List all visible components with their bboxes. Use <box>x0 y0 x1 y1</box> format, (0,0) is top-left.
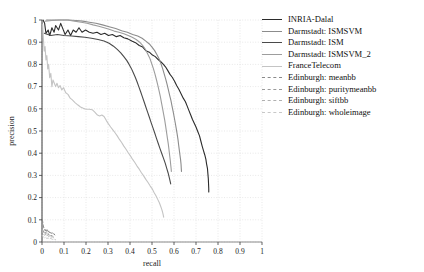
y-tick-label: 0.3 <box>28 171 38 180</box>
y-tick-label: 0.8 <box>28 60 38 69</box>
legend-item[interactable]: Darmstadt: ISMSVM <box>262 26 424 38</box>
series-line-1 <box>46 20 181 171</box>
x-tick-label: 0 <box>40 247 44 256</box>
series-line-4 <box>43 24 164 217</box>
series-line-0 <box>43 20 209 192</box>
y-tick-label: 0.5 <box>28 127 38 136</box>
x-tick-label: 0.5 <box>147 247 157 256</box>
legend-item-label: Darmstadt: ISM <box>288 37 344 49</box>
y-tick-label: 0.9 <box>28 38 38 47</box>
y-tick-label: 0.4 <box>28 149 38 158</box>
y-axis-title: precision <box>7 116 16 145</box>
x-tick-label: 0.9 <box>235 247 245 256</box>
legend-line-swatch <box>262 89 282 90</box>
x-tick-label: 0.3 <box>103 247 113 256</box>
legend-item-label: FranceTelecom <box>288 60 341 72</box>
legend-item-label: Edinburgh: meanbb <box>288 72 356 84</box>
y-tick-label: 0 <box>33 238 37 247</box>
legend-item[interactable]: Darmstadt: ISM <box>262 37 424 49</box>
legend-line-swatch <box>262 66 282 67</box>
legend-item[interactable]: FranceTelecom <box>262 60 424 72</box>
legend-item[interactable]: Darmstadt: ISMSVM_2 <box>262 49 424 61</box>
y-tick-label: 0.2 <box>28 193 38 202</box>
chart-legend: INRIA-DalalDarmstadt: ISMSVMDarmstadt: I… <box>262 14 424 118</box>
x-tick-label: 0.6 <box>169 247 179 256</box>
legend-line-swatch <box>262 54 282 55</box>
legend-item-label: Darmstadt: ISMSVM_2 <box>288 49 371 61</box>
legend-line-swatch <box>262 77 282 78</box>
y-tick-label: 1 <box>33 16 37 25</box>
pr-curve-figure: 00.10.20.30.40.50.60.70.80.9100.10.20.30… <box>0 0 424 272</box>
legend-item-label: Edinburgh: siftbb <box>288 95 348 107</box>
legend-item-label: Edinburgh: wholeimage <box>288 107 371 119</box>
gridlines <box>42 20 262 242</box>
legend-line-swatch <box>262 42 282 43</box>
legend-line-swatch <box>262 31 282 32</box>
y-tick-label: 0.6 <box>28 105 38 114</box>
legend-item[interactable]: Edinburgh: meanbb <box>262 72 424 84</box>
legend-line-swatch <box>262 112 282 113</box>
legend-item-label: Darmstadt: ISMSVM <box>288 26 362 38</box>
legend-item[interactable]: Edinburgh: siftbb <box>262 95 424 107</box>
x-tick-label: 0.2 <box>81 247 91 256</box>
legend-item[interactable]: Edinburgh: wholeimage <box>262 107 424 119</box>
x-tick-label: 0.8 <box>213 247 223 256</box>
y-tick-label: 0.1 <box>28 216 38 225</box>
x-tick-label: 0.1 <box>59 247 69 256</box>
legend-item[interactable]: Edinburgh: puritymeanbb <box>262 84 424 96</box>
legend-item-label: INRIA-Dalal <box>288 14 333 26</box>
legend-line-swatch <box>262 100 282 101</box>
x-tick-label: 0.7 <box>191 247 201 256</box>
x-tick-label: 1 <box>260 247 264 256</box>
legend-line-swatch <box>262 19 282 20</box>
x-tick-label: 0.4 <box>125 247 135 256</box>
legend-item-label: Edinburgh: puritymeanbb <box>288 84 376 96</box>
legend-item[interactable]: INRIA-Dalal <box>262 14 424 26</box>
y-tick-label: 0.7 <box>28 82 38 91</box>
x-axis-title: recall <box>143 259 162 268</box>
